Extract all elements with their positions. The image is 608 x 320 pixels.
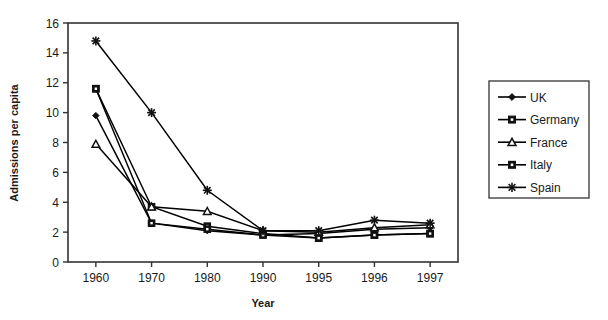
x-tick-label: 1960 <box>83 271 110 285</box>
y-tick-label: 14 <box>46 46 60 60</box>
x-tick-label: 1980 <box>194 271 221 285</box>
data-point-square-center <box>373 234 375 236</box>
y-tick-label: 8 <box>52 136 59 150</box>
x-tick-label: 1995 <box>305 271 332 285</box>
y-tick-label: 4 <box>52 196 59 210</box>
data-point-square-center <box>150 222 152 224</box>
legend-label: Italy <box>530 158 552 172</box>
x-tick-label: 1970 <box>138 271 165 285</box>
legend-label: France <box>530 136 568 150</box>
y-tick-label: 6 <box>52 166 59 180</box>
x-tick-label: 1996 <box>361 271 388 285</box>
data-point-square-center <box>317 237 319 239</box>
y-tick-label: 2 <box>52 226 59 240</box>
y-tick-label: 12 <box>46 76 60 90</box>
data-point-square-center <box>95 88 97 90</box>
legend-label: Spain <box>530 181 561 195</box>
legend-label: Germany <box>530 113 579 127</box>
y-tick-label: 0 <box>52 256 59 270</box>
legend-marker-square-center <box>511 164 514 167</box>
x-tick-label: 1990 <box>250 271 277 285</box>
x-axis-title: Year <box>251 297 275 309</box>
x-tick-label: 1997 <box>417 271 444 285</box>
line-chart: 0246810121416 19601970198019901995199619… <box>0 0 608 320</box>
data-point-square-center <box>429 232 431 234</box>
y-tick-label: 16 <box>46 17 60 31</box>
legend-marker-square-center <box>511 118 514 121</box>
y-axis-ticks: 0246810121416 <box>46 17 68 270</box>
x-axis-ticks: 1960197019801990199519961997 <box>83 262 444 285</box>
legend: UKGermanyFranceItalySpain <box>489 81 589 198</box>
y-axis-title: Admissions per capita <box>8 83 20 201</box>
y-tick-label: 10 <box>46 106 60 120</box>
legend-label: UK <box>530 91 547 105</box>
data-point-square-center <box>206 228 208 230</box>
